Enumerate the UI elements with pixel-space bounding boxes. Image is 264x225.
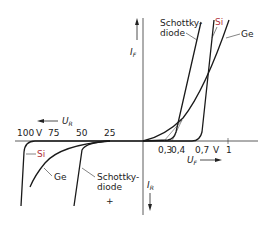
schottky-bottom-label-2: diode [97,182,122,192]
si-bottom-label: Si [37,149,45,159]
tick-100: 100 [17,128,34,138]
schottky-top-label-2: diode [160,28,185,38]
ge-top-leader [226,34,240,38]
tick-25: 25 [104,128,115,138]
tick-50: 50 [76,128,88,138]
ur-arrow-head [37,119,44,123]
ge-bottom-label: Ge [54,172,67,182]
uf-arrow-head [215,158,222,162]
tick-75: 75 [48,128,59,138]
ge-top-label: Ge [241,29,254,39]
tick-1: 1 [226,145,232,155]
ge-forward-curve [143,20,229,141]
ge-bottom-leader [44,168,52,176]
si-top-label: Si [215,17,223,27]
tick-0-7: 0,7 [195,145,209,155]
schottky-top-label-1: Schottky- [160,18,202,28]
stray-mark: + [106,196,114,206]
schottky-forward-curve [143,22,201,141]
tick-v-rev: V [36,128,43,138]
schottky-bottom-leader [82,168,95,177]
uf-label: UF [187,155,198,166]
schottky-bottom-label-1: Schottky- [97,172,139,182]
ur-label: UR [62,116,73,127]
tick-v-fwd: V [213,145,220,155]
if-arrow-head [135,18,139,25]
if-label: IF [130,47,137,58]
schottky-top-leader [186,33,197,40]
ir-label: IR [147,180,154,191]
diode-characteristic-diagram: IF IR UR UF 100 V 75 50 25 0,3 0,4 0,7 V… [0,0,264,225]
ir-arrow-head [148,204,152,211]
tick-0-4: 0,4 [171,145,186,155]
